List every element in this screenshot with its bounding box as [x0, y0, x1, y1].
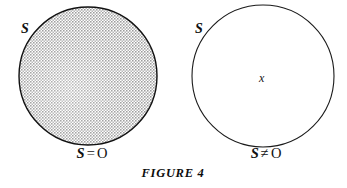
- right-element-label-x: x: [259, 72, 264, 84]
- right-equation-relation: ≠: [259, 145, 271, 161]
- left-equation-relation: =: [85, 145, 97, 161]
- left-equation-variable: S: [77, 145, 86, 161]
- venn-diagram-canvas: [0, 0, 347, 188]
- right-equation-nullset-symbol: O: [271, 145, 281, 161]
- figure-4-container: S S=O S x S≠O FIGURE 4: [0, 0, 347, 188]
- right-equation-variable: S: [251, 145, 260, 161]
- left-set-label-s: S: [21, 22, 29, 36]
- left-circle-group: [19, 7, 157, 145]
- figure-caption: FIGURE 4: [142, 167, 205, 180]
- left-equation-nullset-symbol: O: [97, 145, 107, 161]
- left-equation-s-equals-nullset: S=O: [77, 146, 108, 161]
- right-set-label-s: S: [195, 22, 203, 36]
- right-equation-s-not-equals-nullset: S≠O: [251, 146, 282, 161]
